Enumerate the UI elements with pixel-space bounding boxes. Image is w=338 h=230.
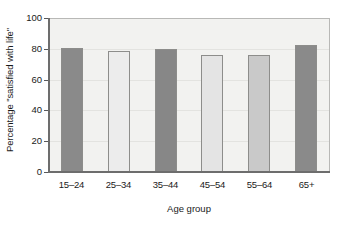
y-tick-label: 80 xyxy=(20,44,42,54)
x-axis-title: Age group xyxy=(48,203,330,214)
bar-45-54 xyxy=(201,55,223,171)
bar-slot xyxy=(96,19,143,171)
y-tick-label: 40 xyxy=(20,105,42,115)
bar-55-64 xyxy=(248,55,270,171)
chart-figure: Percentage "satisfied with life" 0 20 40… xyxy=(0,0,338,230)
bar-35-44 xyxy=(155,49,177,171)
bar-slot xyxy=(142,19,189,171)
bar-slot xyxy=(282,19,329,171)
plot-area xyxy=(48,18,330,172)
y-tick-label: 60 xyxy=(20,75,42,85)
bar-series xyxy=(49,19,329,171)
x-axis-line xyxy=(48,171,330,173)
y-tick-label: 20 xyxy=(20,136,42,146)
x-tick-label: 45–54 xyxy=(189,178,236,192)
y-axis-tick-labels: 0 20 40 60 80 100 xyxy=(16,0,42,230)
bar-slot xyxy=(49,19,96,171)
bar-65-plus xyxy=(295,45,317,171)
y-tick-label: 0 xyxy=(20,167,42,177)
bar-slot xyxy=(236,19,283,171)
bar-15-24 xyxy=(61,48,83,171)
x-tick-label: 15–24 xyxy=(48,178,95,192)
x-tick-label: 55–64 xyxy=(236,178,283,192)
y-tick-label: 100 xyxy=(20,13,42,23)
x-tick-label: 25–34 xyxy=(95,178,142,192)
bar-slot xyxy=(189,19,236,171)
bar-25-34 xyxy=(108,51,130,171)
y-axis-line xyxy=(48,18,50,173)
x-tick-label: 65+ xyxy=(283,178,330,192)
x-axis-tick-labels: 15–24 25–34 35–44 45–54 55–64 65+ xyxy=(48,178,330,192)
x-tick-label: 35–44 xyxy=(142,178,189,192)
